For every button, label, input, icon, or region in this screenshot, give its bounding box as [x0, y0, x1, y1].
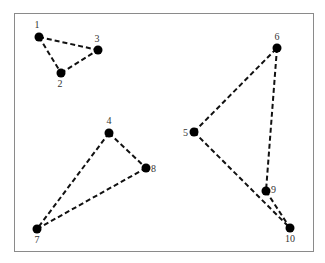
- edge-6-9: [266, 48, 277, 191]
- node-label-6: 6: [275, 31, 280, 42]
- node-6: [273, 44, 282, 53]
- node-label-3: 3: [95, 33, 100, 44]
- node-label-5: 5: [183, 127, 188, 138]
- node-9: [262, 187, 271, 196]
- node-5: [190, 128, 199, 137]
- edge-7-8: [37, 168, 146, 229]
- node-label-2: 2: [58, 78, 63, 89]
- node-10: [286, 224, 295, 233]
- node-label-7: 7: [35, 234, 40, 245]
- node-layer: [33, 33, 295, 234]
- node-3: [94, 46, 103, 55]
- node-7: [33, 225, 42, 234]
- node-label-10: 10: [285, 233, 295, 244]
- label-layer: 12345678910: [35, 19, 296, 245]
- node-1: [35, 33, 44, 42]
- edge-layer: [37, 37, 290, 229]
- node-4: [105, 129, 114, 138]
- edge-9-10: [266, 191, 290, 228]
- graph-diagram: 12345678910: [0, 0, 325, 263]
- node-label-9: 9: [271, 184, 276, 195]
- node-label-8: 8: [151, 163, 156, 174]
- edge-4-8: [109, 133, 146, 168]
- edge-5-6: [194, 48, 277, 132]
- edge-2-3: [61, 50, 98, 73]
- edge-4-7: [37, 133, 109, 229]
- node-label-1: 1: [35, 19, 40, 30]
- edge-1-3: [39, 37, 98, 50]
- node-8: [142, 164, 151, 173]
- node-2: [57, 69, 66, 78]
- node-label-4: 4: [107, 115, 112, 126]
- edge-1-2: [39, 37, 61, 73]
- edge-5-10: [194, 132, 290, 228]
